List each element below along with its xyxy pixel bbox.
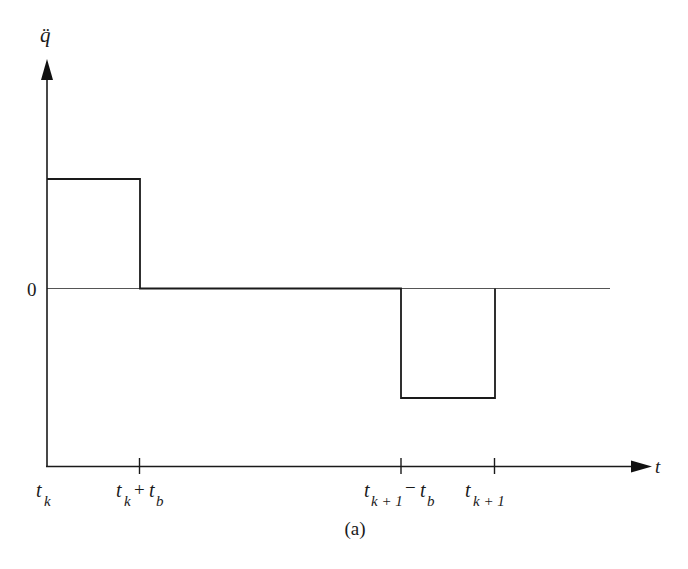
svg-text:t: t	[420, 479, 426, 501]
y-axis-label: q̈	[40, 23, 51, 47]
svg-text:t: t	[36, 479, 42, 501]
svg-text:b: b	[156, 493, 164, 509]
figure-caption: (a)	[344, 518, 365, 540]
svg-text:t: t	[116, 479, 122, 501]
tick-label-tk: t k	[36, 479, 51, 509]
svg-text:−: −	[405, 477, 416, 498]
y-axis	[41, 59, 53, 467]
tick-label-tk1-minus-tb: t k + 1 − t b	[364, 477, 435, 509]
svg-text:k + 1: k + 1	[473, 493, 505, 509]
svg-text:+: +	[134, 479, 145, 500]
svg-text:t: t	[149, 479, 155, 501]
tick-label-tk-plus-tb: t k + t b	[116, 479, 164, 509]
zero-label: 0	[27, 279, 37, 300]
svg-text:t: t	[364, 479, 370, 501]
svg-text:b: b	[427, 493, 435, 509]
x-axis	[46, 458, 652, 474]
y-axis-arrow-icon	[41, 59, 53, 80]
svg-text:k + 1: k + 1	[371, 493, 403, 509]
svg-text:t: t	[465, 479, 471, 501]
acceleration-profile-figure: q̈ 0 t t k t k + t b t k + 1 − t b t k +…	[0, 0, 688, 569]
x-axis-label: t	[655, 456, 661, 477]
svg-text:k: k	[124, 493, 131, 509]
tick-label-tk1: t k + 1	[465, 479, 505, 509]
svg-text:k: k	[44, 493, 51, 509]
x-axis-arrow-icon	[631, 461, 652, 473]
